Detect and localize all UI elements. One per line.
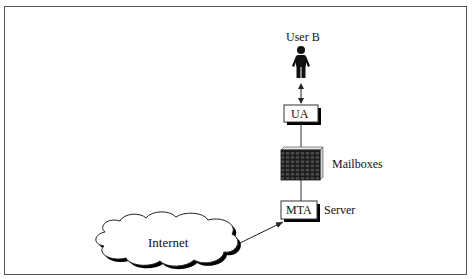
- person-icon: [292, 46, 310, 78]
- mailboxes-label: Mailboxes: [332, 157, 383, 172]
- internet-label: Internet: [148, 235, 188, 251]
- mailbox-grid-icon: [281, 147, 323, 180]
- server-label: Server: [324, 203, 355, 218]
- internet-mta-arrow: [240, 222, 283, 243]
- ua-label: UA: [291, 107, 308, 122]
- diagram-canvas: [0, 0, 473, 279]
- user-label: User B: [286, 30, 320, 45]
- user-ua-arrow: [298, 83, 304, 104]
- mta-label: MTA: [286, 203, 312, 218]
